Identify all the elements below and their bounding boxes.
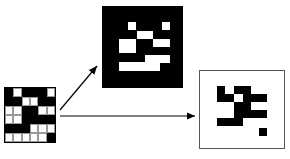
- arrow: [60, 66, 97, 110]
- arrows: [0, 0, 290, 159]
